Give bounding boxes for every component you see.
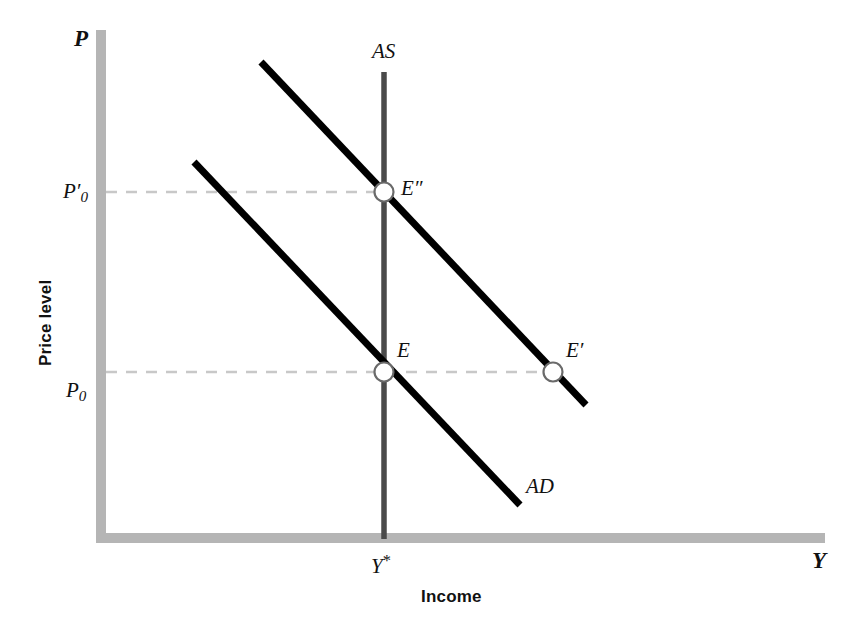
x-axis-title: Income — [421, 588, 482, 605]
point-marker-E-prime — [544, 363, 563, 382]
y-tick-price-high-sub: 0 — [80, 189, 88, 205]
plot-canvas — [0, 0, 851, 631]
x-axis-line — [96, 533, 825, 543]
y-axis-symbol: P — [74, 27, 88, 50]
axes-group — [96, 30, 825, 543]
y-tick-price-low-base: P — [66, 378, 79, 402]
y-axis-title: Price level — [37, 280, 54, 366]
y-tick-label-price-low: P0 — [66, 380, 86, 404]
y-axis-line — [96, 30, 106, 543]
y-tick-price-low-sub: 0 — [79, 388, 87, 404]
point-label-E: E — [397, 340, 410, 361]
x-tick-income-sup: * — [383, 551, 391, 570]
ad-as-diagram: P Y Price level Income P′0 P0 Y* AS AD E… — [0, 0, 851, 631]
point-marker-E — [375, 363, 394, 382]
curve-label-ad: AD — [526, 476, 554, 497]
x-axis-symbol: Y — [812, 549, 826, 572]
point-label-E-double-prime: E″ — [401, 178, 423, 199]
guide-lines-group — [106, 192, 553, 372]
x-tick-label-income-star: Y* — [371, 553, 391, 577]
ad-curve — [194, 162, 520, 505]
y-tick-price-high-base: P — [63, 179, 76, 203]
x-tick-income-base: Y — [371, 554, 383, 578]
point-label-E-prime: E′ — [566, 340, 583, 361]
y-tick-label-price-high: P′0 — [63, 181, 88, 205]
curve-label-as: AS — [372, 41, 395, 62]
point-marker-E-double-prime — [375, 183, 394, 202]
ad-shifted-curve — [261, 62, 586, 405]
